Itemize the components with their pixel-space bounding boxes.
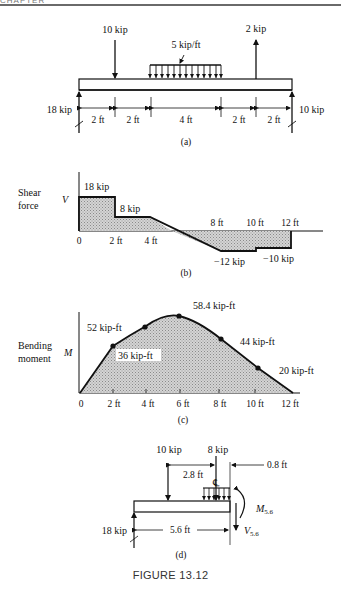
shear-tick-4: 4 ft xyxy=(145,236,158,246)
beam xyxy=(79,79,292,90)
reaction-left-arrow xyxy=(75,92,83,133)
shear-axis-title-line1: Shear xyxy=(18,187,41,198)
figure-canvas: 10 kip 5 kip xyxy=(0,0,341,592)
shear-tick-0: 0 xyxy=(77,236,82,246)
reaction-right-label: 10 kip xyxy=(299,104,324,115)
dim-5-6ft: 5.6 ft xyxy=(170,525,190,535)
panel-c-moment-diagram: Bending moment M 52 kip-ft 36 kip-ft 58.… xyxy=(18,300,314,426)
moment-arrow xyxy=(238,490,245,518)
span-5: 2 ft xyxy=(268,115,281,125)
panel-d-label: (d) xyxy=(175,550,186,561)
distributed-load xyxy=(148,55,223,78)
fbd-load-8kip: 8 kip xyxy=(208,444,228,455)
panel-b-shear-diagram: Shear force V 18 kip 8 kip −12 kip −10 k… xyxy=(18,172,323,279)
moment-value-52: 52 kip-ft xyxy=(87,322,122,333)
fbd-reaction: 18 kip xyxy=(102,525,127,536)
panel-d-free-body: 10 kip 8 kip ℄ 2.8 ft 0.8 ft 18 kip xyxy=(102,444,288,561)
panel-a-label: (a) xyxy=(181,137,192,148)
moment-tick-0: 0 xyxy=(79,399,84,409)
panel-c-label: (c) xyxy=(178,415,189,426)
shear-value-neg12: −12 kip xyxy=(214,256,245,267)
dimension-lines xyxy=(81,97,290,117)
beam-segment xyxy=(134,501,230,512)
dim-0-8ft: 0.8 ft xyxy=(267,460,287,470)
moment-value-20: 20 kip-ft xyxy=(279,365,314,376)
moment-value-36: 36 kip-ft xyxy=(118,350,153,361)
panel-a-loading-diagram: 10 kip 5 kip xyxy=(47,23,325,148)
shear-tick-10: 10 ft xyxy=(246,218,264,228)
span-2: 2 ft xyxy=(127,115,140,125)
moment-value-max: 58.4 kip-ft xyxy=(193,300,235,311)
span-3: 4 ft xyxy=(180,115,193,125)
moment-value-44: 44 kip-ft xyxy=(240,336,275,347)
moment-tick-2: 2 ft xyxy=(108,399,121,409)
reaction-left-label: 18 kip xyxy=(47,104,72,115)
figure-caption: FIGURE 13.12 xyxy=(0,569,341,581)
moment-tick-8: 8 ft xyxy=(214,399,227,409)
load-2kip-label: 2 kip xyxy=(246,23,266,34)
shear-tick-8: 8 ft xyxy=(211,218,224,228)
moment-axis-title-line1: Bending xyxy=(18,340,52,351)
span-4: 2 ft xyxy=(233,115,246,125)
moment-tick-6: 6 ft xyxy=(177,399,190,409)
moment-tick-4: 4 ft xyxy=(142,399,155,409)
shear-tick-2: 2 ft xyxy=(110,236,123,246)
load-10kip-label: 10 kip xyxy=(102,24,127,35)
shear-value-neg10: −10 kip xyxy=(263,253,294,264)
moment-axis-title-line2: moment xyxy=(18,353,51,364)
shear-label: V5.6 xyxy=(244,525,259,538)
moment-tick-10: 10 ft xyxy=(246,399,264,409)
centerline-symbol: ℄ xyxy=(212,477,220,488)
shear-value-18: 18 kip xyxy=(84,181,109,192)
moment-axis-symbol: M xyxy=(63,347,73,358)
moment-tick-12: 12 ft xyxy=(281,399,299,409)
panel-b-label: (b) xyxy=(180,268,191,279)
reaction-right-arrow xyxy=(288,92,296,133)
shear-value-8: 8 kip xyxy=(120,203,140,214)
span-1: 2 ft xyxy=(92,115,105,125)
shear-axis-symbol: V xyxy=(62,194,70,205)
dim-2-8ft: 2.8 ft xyxy=(183,470,203,480)
moment-label: M5.6 xyxy=(255,503,274,516)
fbd-load-10kip: 10 kip xyxy=(156,444,181,455)
shear-axis-title-line2: force xyxy=(18,200,39,211)
distributed-load-label: 5 kip/ft xyxy=(171,39,200,50)
shear-tick-12: 12 ft xyxy=(281,218,299,228)
